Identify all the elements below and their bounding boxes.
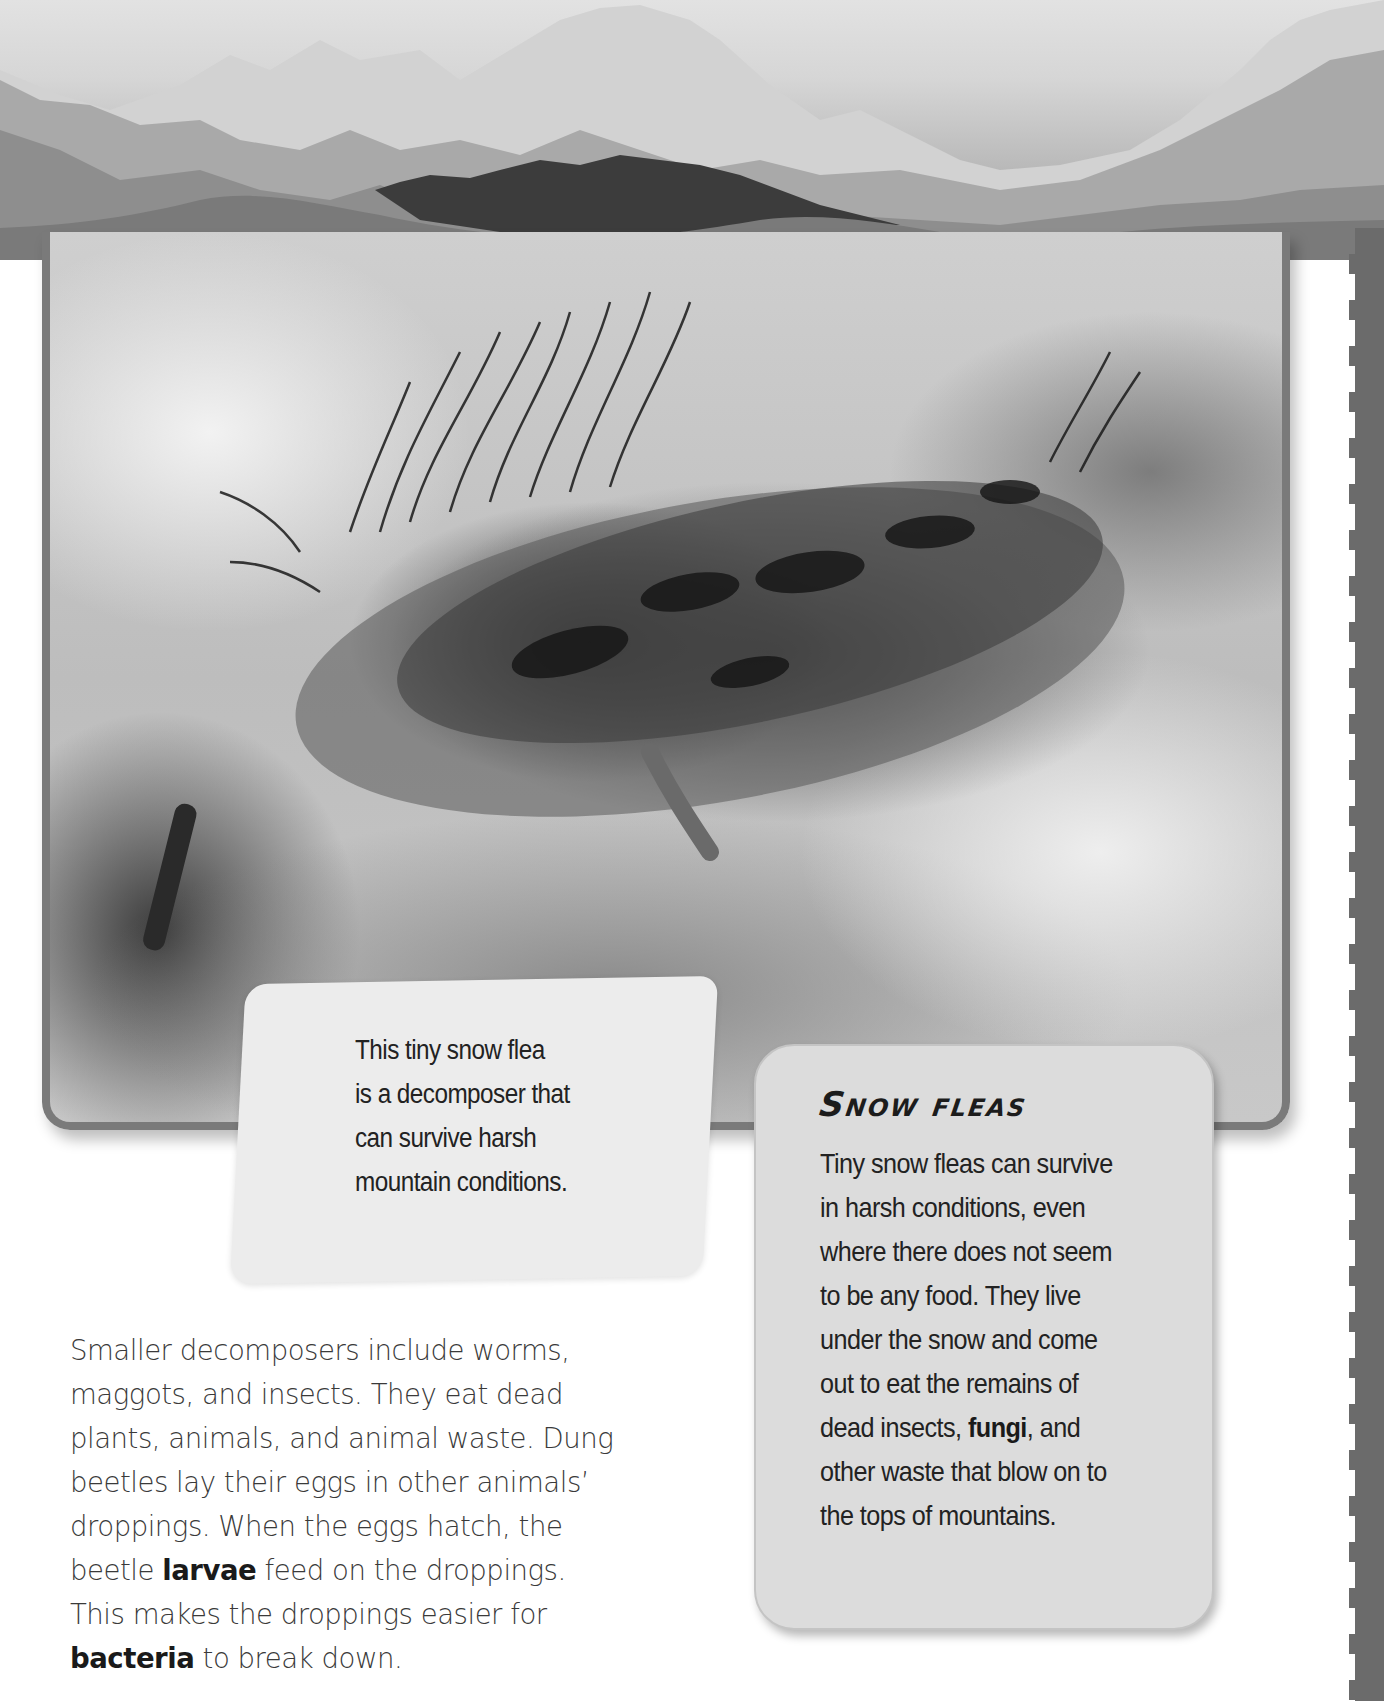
body-line: This makes the droppings easier for — [70, 1592, 678, 1636]
body-text: beetle — [70, 1553, 162, 1587]
glossary-term-fungi: fungi — [968, 1412, 1027, 1443]
body-text: feed on the droppings. — [256, 1553, 566, 1587]
caption-line: This tiny snow flea — [355, 1028, 625, 1072]
body-line: beetle larvae feed on the droppings. — [70, 1548, 678, 1592]
caption-line: is a decomposer that — [355, 1072, 625, 1116]
photo-caption: This tiny snow flea is a decomposer that… — [355, 1028, 625, 1204]
glossary-term-bacteria: bacteria — [70, 1641, 194, 1675]
fact-line: Tiny snow fleas can survive — [820, 1142, 1144, 1186]
fact-line: to be any food. They live — [820, 1274, 1144, 1318]
fact-text: , and — [1027, 1412, 1080, 1443]
fact-line: where there does not seem — [820, 1230, 1144, 1274]
fact-line: out to eat the remains of — [820, 1362, 1144, 1406]
body-line: plants, animals, and animal waste. Dung — [70, 1416, 678, 1460]
fact-line: the tops of mountains. — [820, 1494, 1144, 1538]
mountain-banner — [0, 0, 1384, 260]
caption-line: mountain conditions. — [355, 1160, 625, 1204]
fact-text: dead insects, — [820, 1412, 968, 1443]
page-edge-strip — [1355, 228, 1384, 1701]
fact-line: under the snow and come — [820, 1318, 1144, 1362]
fact-line: in harsh conditions, even — [820, 1186, 1144, 1230]
body-line: droppings. When the eggs hatch, the — [70, 1504, 678, 1548]
glossary-term-larvae: larvae — [162, 1553, 256, 1587]
body-line: bacteria to break down. — [70, 1636, 678, 1680]
fact-box-title: Snow fleas — [817, 1084, 1030, 1124]
fact-line: dead insects, fungi, and — [820, 1406, 1144, 1450]
fact-box-body: Tiny snow fleas can survive in harsh con… — [820, 1142, 1144, 1538]
body-line: Smaller decomposers include worms, — [70, 1328, 678, 1372]
body-paragraph: Smaller decomposers include worms, maggo… — [70, 1328, 678, 1680]
body-line: beetles lay their eggs in other animals’ — [70, 1460, 678, 1504]
body-line: maggots, and insects. They eat dead — [70, 1372, 678, 1416]
fact-line: other waste that blow on to — [820, 1450, 1144, 1494]
caption-line: can survive harsh — [355, 1116, 625, 1160]
body-text: to break down. — [194, 1641, 402, 1675]
mountain-range-icon — [0, 0, 1384, 260]
